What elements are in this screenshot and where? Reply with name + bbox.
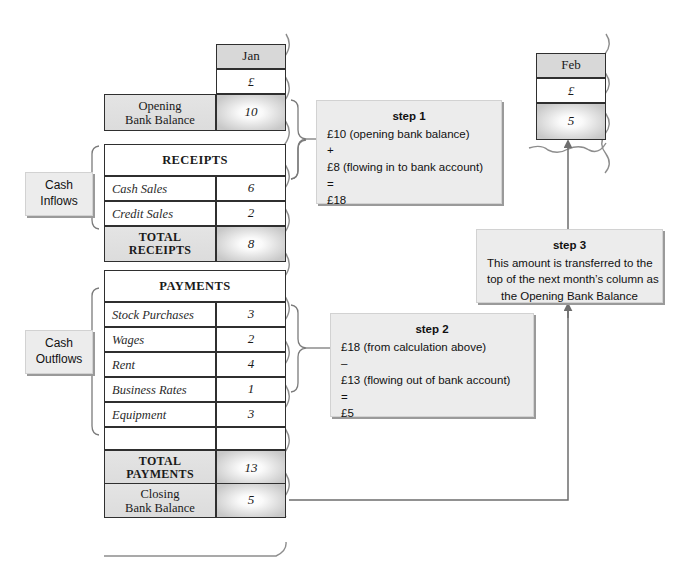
brace-step2	[291, 305, 306, 392]
row-closing-bank-balance-value: 5	[216, 483, 286, 518]
row-rent-label: Rent	[104, 352, 216, 377]
step-2-line-1: £18 (from calculation above)	[341, 339, 523, 356]
row-credit-sales-label: Credit Sales	[104, 201, 216, 226]
step-1-line-2: +	[327, 142, 491, 159]
cashflow-diagram: Jan £ Opening Bank Balance 10 RECEIPTS C…	[0, 0, 687, 571]
row-stock-purchases-value: 3	[216, 302, 286, 327]
row-rent-value: 4	[216, 352, 286, 377]
step-1-line-4: =	[327, 176, 491, 193]
side-label-cash-outflows: Cash Outflows	[25, 330, 93, 374]
currency-header-jan: £	[216, 69, 286, 94]
step-1-line-3: £8 (flowing in to bank account)	[327, 159, 491, 176]
step-1-note: step 1 £10 (opening bank balance) + £8 (…	[316, 100, 502, 204]
brace-step1	[291, 100, 306, 179]
column-header-jan: Jan	[216, 44, 286, 69]
step-3-line-1: This amount is transferred to the	[487, 255, 652, 272]
torn-edge-jan-bottom	[104, 542, 286, 556]
row-total-payments-label: TOTAL PAYMENTS	[104, 450, 216, 486]
step-3-note: step 3 This amount is transferred to the…	[476, 229, 663, 303]
row-cash-sales-label: Cash Sales	[104, 176, 216, 201]
torn-edge-feb-bottom	[529, 143, 606, 152]
step-2-note: step 2 £18 (from calculation above) – £1…	[330, 313, 534, 417]
step-1-line-1: £10 (opening bank balance)	[327, 126, 491, 143]
step-2-line-2: –	[341, 355, 523, 372]
step-3-line-3: the Opening Bank Balance	[487, 288, 652, 305]
row-business-rates-label: Business Rates	[104, 377, 216, 402]
row-total-receipts-value: 8	[216, 226, 286, 262]
row-cash-sales-value: 6	[216, 176, 286, 201]
row-closing-bank-balance-label: Closing Bank Balance	[104, 483, 216, 518]
row-total-receipts-label: TOTAL RECEIPTS	[104, 226, 216, 262]
section-heading-payments: PAYMENTS	[104, 270, 286, 302]
step-1-title: step 1	[327, 108, 491, 125]
row-wages-label: Wages	[104, 327, 216, 352]
step-2-line-3: £13 (flowing out of bank account)	[341, 372, 523, 389]
step-3-title: step 3	[487, 237, 652, 254]
step-1-line-5: £18	[327, 192, 491, 209]
row-opening-bank-balance-value: 10	[216, 94, 286, 131]
row-blank-label	[104, 427, 216, 450]
row-credit-sales-value: 2	[216, 201, 286, 226]
currency-header-feb: £	[536, 78, 606, 103]
row-equipment-value: 3	[216, 402, 286, 427]
row-blank-value	[216, 427, 286, 450]
step-2-line-4: =	[341, 389, 523, 406]
row-wages-value: 2	[216, 327, 286, 352]
step-2-title: step 2	[341, 321, 523, 338]
row-business-rates-value: 1	[216, 377, 286, 402]
step-3-line-2: top of the next month’s column as	[487, 271, 652, 288]
row-equipment-label: Equipment	[104, 402, 216, 427]
brace-step1-lower	[291, 140, 306, 179]
row-stock-purchases-label: Stock Purchases	[104, 302, 216, 327]
column-header-feb: Feb	[536, 53, 606, 78]
row-opening-bank-balance-label: Opening Bank Balance	[104, 94, 216, 131]
side-label-cash-inflows: Cash Inflows	[25, 172, 93, 216]
row-total-payments-value: 13	[216, 450, 286, 486]
step-2-line-5: £5	[341, 405, 523, 422]
row-feb-opening-bank-balance-value: 5	[536, 103, 606, 140]
section-heading-receipts: RECEIPTS	[104, 144, 286, 176]
